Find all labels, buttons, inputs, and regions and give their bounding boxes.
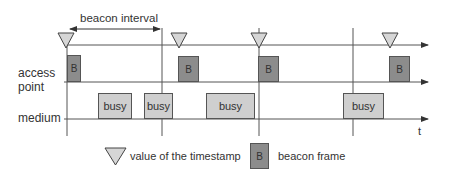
access-label-line2: point — [18, 81, 44, 93]
timestamp-triangle-icon — [171, 33, 187, 48]
time-axis-label: t — [418, 126, 421, 137]
busy-period: busy — [98, 93, 132, 119]
legend-timestamp-label: value of the timestamp — [130, 151, 241, 162]
legend-beacon-icon: B — [250, 143, 269, 169]
medium-label: medium — [18, 112, 61, 124]
beacon-frame: B — [178, 56, 199, 82]
legend-triangle-icon — [105, 148, 126, 165]
busy-period: busy — [144, 93, 173, 119]
beacon-frame: B — [67, 55, 81, 82]
busy-period: busy — [206, 93, 255, 119]
timestamp-triangle-icon — [251, 33, 267, 48]
busy-period: busy — [343, 93, 384, 119]
timestamp-triangle-icon — [58, 33, 74, 48]
beacon-frame: B — [258, 56, 279, 82]
timestamp-triangle-icon — [382, 33, 398, 48]
beacon-interval-label: beacon interval — [80, 13, 158, 25]
beacon-frame: B — [389, 56, 410, 82]
legend-beacon-label: beacon frame — [278, 151, 345, 162]
access-label-line1: access — [18, 67, 55, 79]
beacon-timing-diagram: beacon interval access point medium t B … — [0, 0, 452, 180]
